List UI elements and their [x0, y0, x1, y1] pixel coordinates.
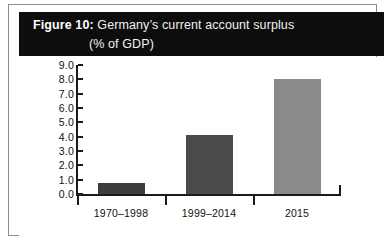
y-axis-tick [78, 179, 83, 181]
y-axis-label: 4.0 [28, 131, 74, 143]
chart-plot-area: 0.01.02.03.04.05.06.07.08.09.0 1970–1998… [19, 57, 384, 238]
figure-number-label: Figure 10: [33, 18, 94, 32]
y-axis-label: 2.0 [28, 159, 74, 171]
y-axis-label: 5.0 [28, 116, 74, 128]
figure-screenshot: Figure 10: Germany’s current account sur… [0, 0, 385, 242]
y-axis-label: 3.0 [28, 145, 74, 157]
x-axis-label: 1999–2014 [182, 207, 236, 219]
x-axis-label: 2015 [285, 207, 309, 219]
y-axis-label: 6.0 [28, 102, 74, 114]
y-axis-tick [78, 136, 83, 138]
figure-frame: Figure 10: Germany’s current account sur… [8, 4, 377, 236]
y-axis-label: 0.0 [28, 188, 74, 200]
y-axis-tick [78, 78, 83, 80]
y-axis-tick [78, 93, 83, 95]
y-axis-tick [78, 107, 83, 109]
figure-title-band: Figure 10: Germany’s current account sur… [19, 12, 384, 56]
figure-title-line-1: Figure 10: Germany’s current account sur… [33, 16, 376, 35]
bar [98, 183, 145, 194]
y-axis-label: 8.0 [28, 73, 74, 85]
x-axis-line [76, 194, 341, 196]
y-axis-tick [78, 150, 83, 152]
x-axis-tick [77, 196, 79, 205]
x-axis-tick [165, 196, 167, 205]
figure-title-text: Germany’s current account surplus [94, 18, 294, 32]
y-axis-tick [78, 64, 83, 66]
y-axis-line [76, 65, 78, 196]
y-axis-tick [78, 193, 83, 195]
bar [274, 79, 321, 194]
x-axis-tick [253, 196, 255, 205]
x-axis-label: 1970–1998 [94, 207, 148, 219]
y-axis-tick [78, 164, 83, 166]
y-axis-tick [78, 121, 83, 123]
bar [186, 135, 233, 194]
y-axis-label: 7.0 [28, 88, 74, 100]
x-axis-end-tick [339, 185, 341, 196]
figure-title-line-2: (% of GDP) [33, 35, 376, 54]
y-axis-label: 9.0 [28, 59, 74, 71]
y-axis-label: 1.0 [28, 174, 74, 186]
